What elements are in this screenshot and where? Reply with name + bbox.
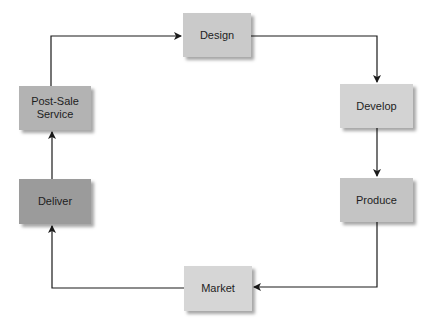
node-post-sale-service: Post-Sale Service: [19, 86, 91, 130]
node-label-line1: Post-Sale: [31, 95, 79, 108]
node-label: Develop: [356, 100, 396, 113]
arrow-produce-to-market: [254, 222, 377, 287]
node-label: Produce: [356, 194, 397, 207]
node-label-line2: Service: [37, 108, 74, 121]
product-lifecycle-diagram: Design Develop Produce Market Deliver Po…: [0, 0, 437, 333]
node-deliver: Deliver: [19, 179, 91, 224]
arrow-design-to-develop: [251, 36, 377, 82]
node-develop: Develop: [340, 84, 413, 128]
arrow-market-to-deliver: [52, 226, 184, 288]
node-design: Design: [183, 13, 251, 57]
node-produce: Produce: [340, 178, 413, 222]
node-label: Market: [201, 282, 235, 295]
node-label: Deliver: [38, 195, 72, 208]
node-label: Design: [200, 29, 234, 42]
arrow-postsale-to-design: [51, 36, 181, 86]
node-market: Market: [184, 266, 252, 311]
